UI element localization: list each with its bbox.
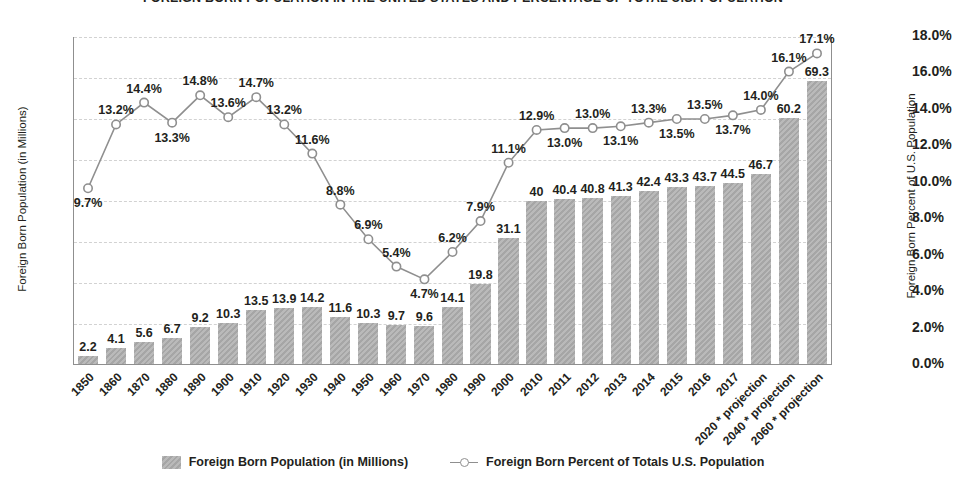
line-data-label: 7.9% <box>466 200 495 214</box>
line-data-label: 13.0% <box>575 107 610 121</box>
line-marker[interactable] <box>785 67 793 75</box>
line-data-label: 6.9% <box>354 218 383 232</box>
line-data-label: 14.0% <box>743 89 778 103</box>
line-data-label: 13.2% <box>267 103 302 117</box>
y-axis-left-title: Foreign Born Population (in Millions) <box>16 74 28 324</box>
line-data-label: 5.4% <box>382 246 411 260</box>
line-marker[interactable] <box>645 118 653 126</box>
line-marker[interactable] <box>392 262 400 270</box>
line-marker[interactable] <box>588 124 596 132</box>
x-axis-tick-label: 1990 <box>461 370 490 399</box>
legend-bar-swatch-icon <box>162 456 181 469</box>
line-marker[interactable] <box>757 106 765 114</box>
line-marker[interactable] <box>617 122 625 130</box>
x-axis-tick-label: 1930 <box>292 370 321 399</box>
x-axis-tick-label: 1950 <box>348 370 377 399</box>
line-data-label: 4.7% <box>410 287 439 301</box>
line-data-label: 9.7% <box>74 196 103 210</box>
line-data-label: 13.7% <box>715 123 750 137</box>
line-data-label: 13.1% <box>603 134 638 148</box>
x-axis-tick-label: 1940 <box>320 370 349 399</box>
y-axis-right-tick-label: 2.0% <box>912 319 956 335</box>
line-marker[interactable] <box>701 115 709 123</box>
line-data-label: 11.1% <box>491 142 526 156</box>
line-data-label: 13.6% <box>210 96 245 110</box>
line-data-label: 14.8% <box>182 74 217 88</box>
y-axis-right-tick-label: 6.0% <box>912 246 956 262</box>
line-marker[interactable] <box>84 184 92 192</box>
x-axis-tick-label: 2015 <box>657 370 686 399</box>
line-marker[interactable] <box>224 113 232 121</box>
line-marker[interactable] <box>280 120 288 128</box>
legend-line-label: Foreign Born Percent of Totals U.S. Popu… <box>486 455 764 469</box>
line-marker[interactable] <box>560 124 568 132</box>
line-data-label: 13.2% <box>98 103 133 117</box>
x-axis-tick-label: 1860 <box>96 370 125 399</box>
x-axis-tick-label: 2000 <box>489 370 518 399</box>
legend-bar-label: Foreign Born Population (in Millions) <box>189 455 408 469</box>
line-data-label: 13.0% <box>547 136 582 150</box>
legend-item-bar[interactable]: Foreign Born Population (in Millions) <box>162 455 408 469</box>
line-data-label: 14.4% <box>126 82 161 96</box>
y-axis-right-tick-label: 16.0% <box>912 63 956 79</box>
y-axis-right-tick-label: 8.0% <box>912 209 956 225</box>
line-marker[interactable] <box>504 159 512 167</box>
x-axis-tick-label: 2010 <box>517 370 546 399</box>
line-marker[interactable] <box>140 98 148 106</box>
y-axis-right-tick-label: 4.0% <box>912 282 956 298</box>
y-axis-right-tick-label: 10.0% <box>912 173 956 189</box>
x-axis-tick-label: 2016 <box>685 370 714 399</box>
x-axis-tick-label: 1910 <box>236 370 265 399</box>
line-data-label: 16.1% <box>771 51 806 65</box>
line-marker[interactable] <box>673 115 681 123</box>
y-axis-right-tick-label: 18.0% <box>912 27 956 43</box>
line-marker[interactable] <box>729 111 737 119</box>
line-marker[interactable] <box>196 91 204 99</box>
y-axis-right-tick-label: 0.0% <box>912 355 956 371</box>
x-axis-tick-label: 2011 <box>545 370 573 398</box>
line-marker[interactable] <box>813 49 821 57</box>
line-data-label: 17.1% <box>799 32 834 46</box>
line-marker[interactable] <box>336 200 344 208</box>
y-axis-right-tick-label: 14.0% <box>912 100 956 116</box>
line-marker[interactable] <box>112 120 120 128</box>
line-data-label: 11.6% <box>295 133 330 147</box>
line-data-label: 13.3% <box>154 131 189 145</box>
legend-item-line[interactable]: Foreign Born Percent of Totals U.S. Popu… <box>450 455 764 469</box>
x-axis-tick-label: 2012 <box>573 370 602 399</box>
line-data-label: 6.2% <box>438 231 467 245</box>
x-axis-tick-label: 1870 <box>124 370 153 399</box>
line-data-label: 8.8% <box>326 184 355 198</box>
line-marker[interactable] <box>168 118 176 126</box>
x-axis-tick-label: 1980 <box>433 370 462 399</box>
x-axis-tick-label: 1970 <box>405 370 434 399</box>
x-axis-tick-label: 2013 <box>601 370 630 399</box>
line-marker[interactable] <box>420 275 428 283</box>
line-marker[interactable] <box>252 93 260 101</box>
line-data-label: 14.7% <box>239 76 274 90</box>
x-axis-tick-label: 1880 <box>152 370 181 399</box>
line-marker[interactable] <box>364 235 372 243</box>
x-axis-tick-label: 2014 <box>629 370 658 399</box>
chart-legend: Foreign Born Population (in Millions) Fo… <box>0 455 926 469</box>
axis-baseline <box>74 364 831 365</box>
line-data-label: 12.9% <box>519 109 554 123</box>
line-data-label: 13.5% <box>687 98 722 112</box>
legend-line-marker-icon <box>450 457 478 468</box>
plot-area: 2.24.15.66.79.210.313.513.914.211.610.39… <box>73 37 832 365</box>
line-data-label: 13.3% <box>631 102 666 116</box>
line-marker[interactable] <box>308 149 316 157</box>
line-data-label: 13.5% <box>659 127 694 141</box>
line-marker[interactable] <box>476 217 484 225</box>
x-axis-tick-label: 1920 <box>264 370 293 399</box>
line-marker[interactable] <box>448 248 456 256</box>
x-axis-tick-label: 1890 <box>180 370 209 399</box>
x-axis-tick-label: 1960 <box>376 370 405 399</box>
x-axis-tick-label: 1850 <box>68 370 97 399</box>
y-axis-right-tick-label: 12.0% <box>912 136 956 152</box>
chart-title: FOREIGN BORN POPULATION IN THE UNITED ST… <box>0 0 926 5</box>
line-marker[interactable] <box>532 126 540 134</box>
x-axis-tick-label: 1900 <box>208 370 237 399</box>
